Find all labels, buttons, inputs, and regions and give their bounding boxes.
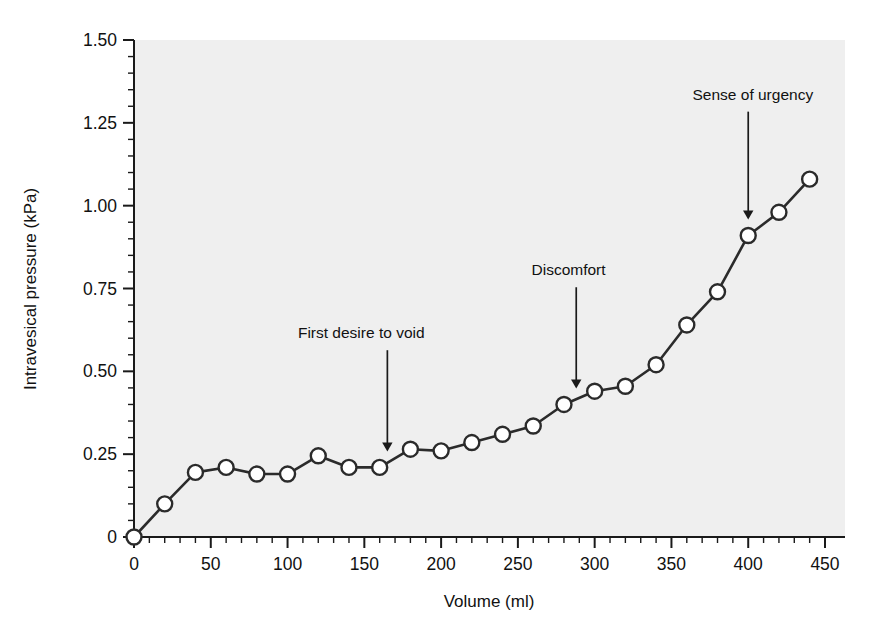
y-tick-label: 0.75 — [83, 279, 117, 299]
annotation-label: Discomfort — [532, 261, 607, 278]
x-tick-label: 350 — [657, 554, 686, 574]
data-point-marker — [249, 467, 264, 482]
x-axis-title: Volume (ml) — [444, 592, 535, 611]
data-point-marker — [372, 460, 387, 475]
annotation-label: Sense of urgency — [693, 86, 814, 103]
x-tick-label: 300 — [580, 554, 609, 574]
y-axis-major-ticks — [123, 40, 134, 537]
data-point-marker — [219, 460, 234, 475]
data-point-marker — [618, 379, 633, 394]
cystometrogram-figure: 00.250.500.751.001.251.50 05010015020025… — [0, 0, 889, 623]
data-point-marker — [127, 530, 142, 545]
data-point-marker — [741, 228, 756, 243]
y-tick-label: 1.50 — [83, 30, 117, 50]
x-axis-tick-labels: 050100150200250300350400450 — [129, 554, 840, 574]
y-axis-title: Intravesical pressure (kPa) — [21, 188, 40, 390]
data-point-marker — [311, 448, 326, 463]
x-tick-label: 50 — [201, 554, 221, 574]
x-tick-label: 0 — [129, 554, 139, 574]
x-tick-label: 450 — [810, 554, 839, 574]
data-point-marker — [587, 384, 602, 399]
data-point-marker — [434, 443, 449, 458]
y-tick-label: 1.00 — [83, 196, 117, 216]
x-tick-label: 100 — [273, 554, 302, 574]
chart-canvas: 00.250.500.751.001.251.50 05010015020025… — [0, 0, 889, 623]
data-point-marker — [556, 397, 571, 412]
data-point-marker — [403, 442, 418, 457]
y-tick-label: 0.25 — [83, 444, 117, 464]
y-tick-label: 0 — [107, 527, 117, 547]
data-point-marker — [802, 172, 817, 187]
y-tick-label: 1.25 — [83, 113, 117, 133]
y-axis-tick-labels: 00.250.500.751.001.251.50 — [83, 30, 117, 547]
data-point-marker — [771, 205, 786, 220]
x-tick-label: 250 — [503, 554, 532, 574]
data-point-marker — [526, 419, 541, 434]
data-point-marker — [341, 460, 356, 475]
data-point-marker — [464, 435, 479, 450]
annotation-label: First desire to void — [298, 324, 425, 341]
data-point-marker — [157, 496, 172, 511]
data-point-marker — [188, 465, 203, 480]
x-tick-label: 150 — [350, 554, 379, 574]
data-point-marker — [495, 427, 510, 442]
data-point-marker — [280, 467, 295, 482]
plot-background — [134, 40, 845, 537]
x-tick-label: 200 — [427, 554, 456, 574]
data-point-marker — [710, 284, 725, 299]
y-tick-label: 0.50 — [83, 361, 117, 381]
x-tick-label: 400 — [734, 554, 763, 574]
x-axis-major-ticks — [134, 537, 825, 548]
data-point-marker — [649, 357, 664, 372]
data-point-marker — [679, 317, 694, 332]
